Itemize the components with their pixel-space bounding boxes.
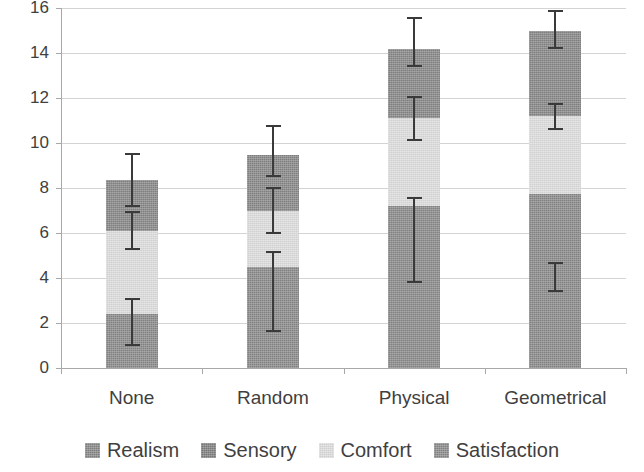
chart-legend: RealismSensoryComfortSatisfaction [0, 440, 644, 460]
x-axis-tick-mark [61, 368, 62, 374]
legend-swatch [434, 443, 449, 458]
legend-swatch-texture [434, 443, 449, 458]
legend-label: Satisfaction [456, 440, 559, 460]
legend-swatch-texture [85, 443, 100, 458]
y-axis-tick-mark [56, 8, 62, 9]
y-axis-tick-label: 8 [0, 179, 49, 196]
x-axis-tick-label: Random [203, 388, 343, 409]
legend-swatch-texture [319, 443, 334, 458]
x-axis-tick-label: None [62, 388, 202, 409]
y-axis-tick-mark [56, 278, 62, 279]
y-axis-tick-mark [56, 188, 62, 189]
legend-label: Sensory [223, 440, 296, 460]
y-axis-tick-label: 16 [0, 0, 49, 16]
legend-item[interactable]: Satisfaction [434, 440, 559, 460]
x-axis-tick-mark [485, 368, 486, 374]
y-axis-tick-label: 14 [0, 44, 49, 61]
stacked-bar-chart: 0246810121416 NoneRandomPhysicalGeometri… [0, 0, 644, 472]
legend-label: Comfort [341, 440, 412, 460]
y-axis-tick-label: 6 [0, 224, 49, 241]
y-axis-tick-label: 0 [0, 359, 49, 376]
legend-swatch [319, 443, 334, 458]
legend-swatch [85, 443, 100, 458]
x-axis-tick-mark [202, 368, 203, 374]
y-axis-tick-mark [56, 233, 62, 234]
legend-swatch-texture [201, 443, 216, 458]
y-axis-tick-label: 2 [0, 314, 49, 331]
x-axis-tick-mark [626, 368, 627, 374]
y-axis-tick-mark [56, 98, 62, 99]
x-axis-tick-label: Physical [344, 388, 484, 409]
y-axis-tick-mark [56, 143, 62, 144]
legend-item[interactable]: Comfort [319, 440, 412, 460]
y-axis-tick-mark [56, 323, 62, 324]
legend-item[interactable]: Realism [85, 440, 179, 460]
y-axis-tick-label: 4 [0, 269, 49, 286]
legend-item[interactable]: Sensory [201, 440, 296, 460]
y-axis-tick-label: 10 [0, 134, 49, 151]
x-axis-tick-mark [344, 368, 345, 374]
x-axis-tick-label: Geometrical [485, 388, 625, 409]
y-axis-tick-mark [56, 53, 62, 54]
y-axis-tick-label: 12 [0, 89, 49, 106]
legend-label: Realism [107, 440, 179, 460]
legend-swatch [201, 443, 216, 458]
